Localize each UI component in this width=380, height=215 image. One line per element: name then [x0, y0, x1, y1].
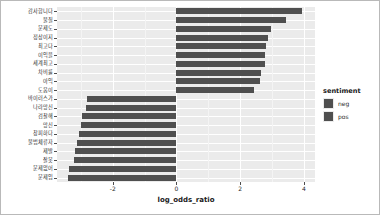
legend-item: neg	[323, 98, 379, 109]
bar	[176, 17, 286, 23]
y-axis-tick-label: 불법체류자	[1, 140, 53, 145]
y-axis-tick-mark	[54, 178, 57, 179]
y-axis-tick-mark	[54, 73, 57, 74]
y-axis-tick-label: 창피하다	[1, 131, 53, 136]
bar	[86, 105, 176, 111]
y-axis-tick-mark	[54, 46, 57, 47]
y-axis-tick-mark	[54, 143, 57, 144]
bar	[87, 96, 176, 102]
gridline-vertical-major	[176, 7, 177, 182]
legend-key	[323, 98, 334, 109]
bar	[176, 61, 265, 67]
legend-color-swatch	[324, 112, 333, 121]
y-axis-tick-label: 제발	[1, 149, 53, 154]
bar	[176, 35, 268, 41]
gridline-vertical-minor	[208, 7, 209, 182]
bar	[176, 70, 260, 76]
bar	[75, 148, 176, 154]
y-axis-tick-label: 차비를	[1, 70, 53, 75]
y-axis-tick-mark	[54, 125, 57, 126]
bar	[176, 78, 259, 84]
y-axis-tick-label: 검찰해	[1, 114, 53, 119]
y-axis-tick-label: 정상이지	[1, 35, 53, 40]
y-axis-tick-mark	[54, 169, 57, 170]
gridline-vertical-major	[113, 7, 114, 182]
plot-panel	[57, 7, 315, 182]
bar	[68, 175, 177, 181]
legend-key	[323, 111, 334, 122]
gridline-vertical-minor	[81, 7, 82, 182]
y-axis-tick-label: 문제도	[1, 26, 53, 31]
y-axis-tick-label: 감사합니다	[1, 9, 53, 14]
y-axis-tick-label: 문제없어	[1, 166, 53, 171]
bar	[69, 166, 177, 172]
y-axis-tick-mark	[54, 64, 57, 65]
legend: sentiment negpos	[323, 87, 379, 124]
y-axis-tick-mark	[54, 38, 57, 39]
gridline-vertical-minor	[145, 7, 146, 182]
y-axis-tick-label: 나라망신	[1, 105, 53, 110]
y-axis-tick-mark	[54, 108, 57, 109]
y-axis-tick-mark	[54, 116, 57, 117]
legend-label: neg	[338, 100, 349, 107]
bar	[77, 140, 176, 146]
legend-item: pos	[323, 111, 379, 122]
gridline-vertical-major	[304, 7, 305, 182]
y-axis-tick-label: 아익	[1, 79, 53, 84]
y-axis-tick-label: 세계최고	[1, 61, 53, 66]
y-axis-tick-label: 바이러스가	[1, 96, 53, 101]
x-axis-title: log_odds_ratio	[57, 196, 315, 204]
y-axis-tick-label: 이익을	[1, 53, 53, 58]
x-axis-tick-label: 2	[230, 186, 250, 192]
bar	[81, 122, 177, 128]
legend-title: sentiment	[323, 87, 379, 95]
y-axis-tick-label: 물질	[1, 18, 53, 23]
y-axis-tick-label: 잘못	[1, 158, 53, 163]
y-axis-tick-mark	[54, 11, 57, 12]
chart-figure: 감사합니다물질문제도정상이지최고다이익을세계최고차비를아익도움이바이러스가나라망…	[0, 0, 380, 215]
y-axis-tick-mark	[54, 55, 57, 56]
y-axis-tick-mark	[54, 160, 57, 161]
y-axis-tick-mark	[54, 99, 57, 100]
y-axis-tick-mark	[54, 90, 57, 91]
y-axis-tick-mark	[54, 29, 57, 30]
y-axis-tick-label: 최고다	[1, 44, 53, 49]
bar	[176, 26, 271, 32]
y-axis-tick-mark	[54, 151, 57, 152]
x-axis-tick-label: -2	[103, 186, 123, 192]
bar	[79, 131, 176, 137]
gridline-vertical-minor	[272, 7, 273, 182]
bar	[74, 157, 177, 163]
y-axis-label-group: 감사합니다물질문제도정상이지최고다이익을세계최고차비를아익도움이바이러스가나라망…	[1, 7, 53, 182]
legend-label: pos	[338, 113, 349, 120]
x-axis-tick-label: 0	[166, 186, 186, 192]
bar	[176, 52, 265, 58]
bar	[176, 87, 254, 93]
gridline-vertical-major	[240, 7, 241, 182]
y-axis-tick-label: 망신	[1, 123, 53, 128]
y-axis-tick-mark	[54, 81, 57, 82]
x-axis-tick-label: 4	[294, 186, 314, 192]
y-axis-tick-label: 문제임	[1, 175, 53, 180]
bar	[82, 113, 176, 119]
legend-items: negpos	[323, 98, 379, 122]
y-axis-tick-mark	[54, 134, 57, 135]
legend-color-swatch	[324, 99, 333, 108]
bar	[176, 43, 265, 49]
y-axis-tick-label: 도움이	[1, 88, 53, 93]
bar	[176, 8, 302, 14]
y-axis-tick-mark	[54, 20, 57, 21]
